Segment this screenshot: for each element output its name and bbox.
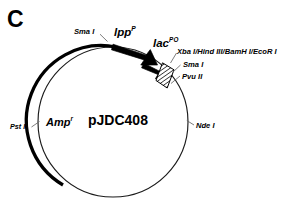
site-label-nde-i: Nde I: [196, 122, 215, 130]
gene-label-lac: lacPO: [153, 37, 179, 49]
polylinker-hatched-box: [156, 63, 174, 88]
gene-label-amp-text: Amp: [46, 116, 70, 128]
plasmid-name-label: pJDC408: [88, 113, 148, 127]
site-label-xba-hind-bamh-ecor: Xba I/Hind III/BamH I/EcoR I: [177, 48, 277, 56]
plasmid-diagram-svg: [0, 0, 305, 216]
site-label-sma-i-left: Sma I: [74, 28, 94, 36]
leader-sma-i-left: [100, 34, 108, 41]
leader-sma-i-right: [173, 65, 181, 73]
plasmid-map-figure: C Sma I lppP lacPO Xba I/Hind III/BamH I…: [0, 0, 305, 216]
gene-label-lac-text: lac: [153, 37, 169, 49]
lpp-promoter-arrow: [112, 44, 158, 65]
site-label-pvu-ii: Pvu II: [182, 73, 202, 81]
gene-label-lpp: lppP: [114, 26, 136, 38]
leader-pvu-ii: [171, 76, 180, 84]
panel-letter: C: [7, 8, 24, 31]
site-label-sma-i-right: Sma I: [183, 61, 203, 69]
gene-label-lpp-text: lpp: [114, 26, 131, 38]
gene-label-lpp-superscript: P: [131, 25, 135, 32]
gene-label-lac-superscript: PO: [169, 36, 179, 43]
gene-label-amp-superscript: r: [70, 115, 72, 122]
gene-label-amp: Ampr: [46, 116, 73, 128]
leader-xba-group: [171, 53, 177, 63]
site-label-pst-i: Pst I: [10, 123, 25, 130]
